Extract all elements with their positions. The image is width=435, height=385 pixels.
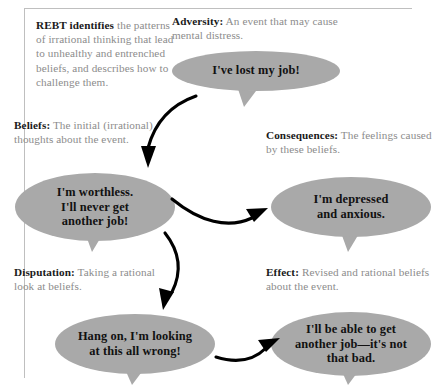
quote-line: Hang on, I'm looking: [55, 329, 215, 344]
quote-line: I've lost my job!: [176, 63, 336, 78]
caption-disputation-lead: Disputation:: [14, 266, 75, 278]
quote-effect: I'll be able to get another job—it's not…: [271, 322, 431, 366]
intro-caption: REBT identifies the patterns of irration…: [36, 18, 176, 89]
caption-beliefs: Beliefs: The initial (irrational) though…: [14, 118, 164, 146]
quote-line: at this all wrong!: [55, 344, 215, 359]
quote-line: another job!: [15, 214, 175, 229]
speech-bubble-adversity: [172, 51, 340, 107]
caption-effect: Effect: Revised and rational beliefs abo…: [266, 265, 434, 293]
quote-line: that bad.: [271, 351, 431, 366]
quote-consequences: I'm depressed and anxious.: [271, 192, 431, 221]
quote-line: I'm worthless.: [15, 185, 175, 200]
diagram-canvas: REBT identifies the patterns of irration…: [0, 0, 435, 385]
quote-line: I'm depressed: [271, 192, 431, 207]
caption-adversity-lead: Adversity:: [172, 15, 223, 27]
quote-line: another job—it's not: [271, 337, 431, 352]
caption-consequences-lead: Consequences:: [266, 129, 338, 141]
intro-lead: REBT identifies: [36, 19, 114, 31]
quote-line: I'll never get: [15, 200, 175, 215]
quote-line: I'll be able to get: [271, 322, 431, 337]
caption-adversity: Adversity: An event that may cause menta…: [172, 14, 342, 42]
quote-beliefs: I'm worthless. I'll never get another jo…: [15, 185, 175, 229]
caption-effect-lead: Effect:: [266, 266, 299, 278]
caption-disputation: Disputation: Taking a rational look at b…: [14, 265, 172, 293]
caption-consequences: Consequences: The feelings caused by the…: [266, 128, 434, 156]
quote-adversity: I've lost my job!: [176, 63, 336, 78]
quote-line: and anxious.: [271, 207, 431, 222]
caption-beliefs-lead: Beliefs:: [14, 119, 50, 131]
arrow-beliefs-to-consequences: [172, 199, 268, 223]
quote-disputation: Hang on, I'm looking at this all wrong!: [55, 329, 215, 358]
